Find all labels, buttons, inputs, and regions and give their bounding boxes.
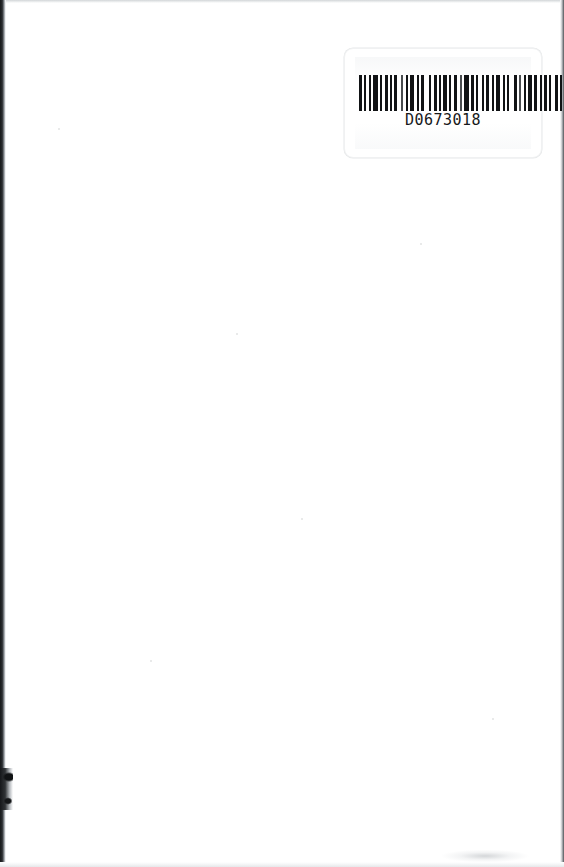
scan-speck (420, 243, 422, 245)
barcode-number: D0673018 (345, 113, 541, 128)
scan-speck (150, 660, 152, 662)
left-edge-notch (0, 768, 13, 810)
bottom-right-smudge (430, 848, 540, 864)
scan-speck (492, 718, 494, 720)
top-page-edge (0, 0, 564, 3)
scan-speck (58, 128, 60, 130)
library-barcode-label: D0673018 (344, 48, 542, 158)
left-binding-shadow (0, 0, 6, 867)
right-page-edge (560, 0, 564, 867)
scan-speck (301, 518, 303, 520)
scanned-page: D0673018 (0, 0, 564, 867)
scan-speck (236, 333, 238, 335)
barcode-bars (359, 75, 521, 111)
